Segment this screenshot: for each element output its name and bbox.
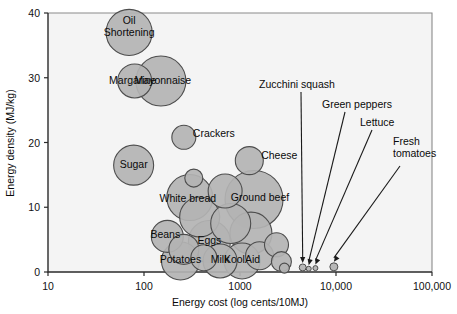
callout-bubble bbox=[330, 263, 338, 271]
bubble-label: Beans bbox=[150, 228, 180, 240]
y-tick-label: 30 bbox=[28, 72, 40, 84]
callout-bubble bbox=[306, 266, 311, 271]
x-tick-label: 10 bbox=[42, 280, 54, 292]
bubble-label: Potatoes bbox=[160, 253, 201, 265]
data-bubble bbox=[235, 147, 263, 175]
bubble-chart: 10100100010,000100,000010203040 OilShort… bbox=[0, 0, 457, 314]
callout-label: Green peppers bbox=[322, 98, 392, 110]
x-axis-title: Energy cost (log cents/10MJ) bbox=[172, 296, 308, 308]
y-tick-label: 0 bbox=[34, 266, 40, 278]
y-axis-title: Energy density (MJ/kg) bbox=[4, 89, 16, 196]
data-bubble bbox=[185, 169, 203, 187]
bubble-label: Sugar bbox=[120, 158, 149, 170]
bubble-label: KoolAid bbox=[224, 253, 260, 265]
y-tick-label: 40 bbox=[28, 7, 40, 19]
y-tick-label: 20 bbox=[28, 137, 40, 149]
callout-bubble bbox=[299, 264, 306, 271]
callout-label: Fresh bbox=[393, 135, 420, 147]
data-bubble bbox=[279, 263, 289, 273]
callout-label: Zucchini squash bbox=[259, 78, 335, 90]
callout-bubble bbox=[313, 266, 318, 271]
bubble-label: Crackers bbox=[193, 127, 235, 139]
x-tick-label: 100,000 bbox=[413, 280, 451, 292]
x-tick-label: 100 bbox=[135, 280, 153, 292]
bubble-label: Mayonnaise bbox=[135, 74, 192, 86]
bubble-label: Shortening bbox=[104, 26, 155, 38]
chart-page: 10100100010,000100,000010203040 OilShort… bbox=[0, 0, 457, 314]
x-tick-label: 1000 bbox=[228, 280, 252, 292]
callout-label: tomatoes bbox=[393, 147, 436, 159]
callout-label: Lettuce bbox=[360, 116, 395, 128]
x-tick-label: 10,000 bbox=[320, 280, 352, 292]
bubble-label: Oil bbox=[123, 14, 136, 26]
bubble-label: Ground beef bbox=[231, 191, 289, 203]
bubble-label: White bread bbox=[159, 192, 216, 204]
bubble-label: Cheese bbox=[261, 149, 297, 161]
bubble-label: Eggs bbox=[197, 234, 221, 246]
y-tick-label: 10 bbox=[28, 201, 40, 213]
